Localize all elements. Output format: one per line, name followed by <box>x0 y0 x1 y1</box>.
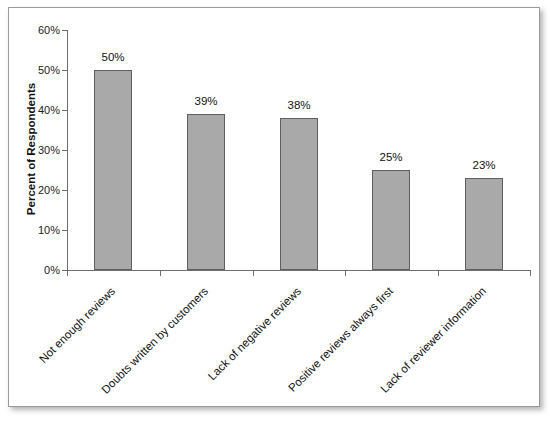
y-tick-label-40: 40% <box>14 105 60 116</box>
y-tick-label-40-wrap: 40% <box>12 105 60 116</box>
bar-value-lack-of-negative-reviews: 38% <box>269 99 329 111</box>
y-tick-label-60: 60% <box>14 25 60 36</box>
x-tick-5 <box>530 271 531 276</box>
x-axis-line <box>67 270 531 271</box>
bar-value-not-enough-reviews: 50% <box>83 51 143 63</box>
y-tick-30 <box>62 150 67 151</box>
y-axis-line <box>67 30 68 271</box>
x-tick-1 <box>160 271 161 276</box>
y-tick-label-20-wrap: 20% <box>12 185 60 196</box>
bar-positive-reviews-always-first[interactable] <box>372 170 410 270</box>
x-tick-3 <box>345 271 346 276</box>
y-tick-label-20: 20% <box>14 185 60 196</box>
bar-not-enough-reviews[interactable] <box>94 70 132 270</box>
y-tick-label-50-wrap: 50% <box>12 65 60 76</box>
plot-area: Percent of Respondents 60% 50% 40% 30% 2… <box>0 0 550 424</box>
bar-lack-of-negative-reviews[interactable] <box>280 118 318 270</box>
y-tick-label-50: 50% <box>14 65 60 76</box>
y-tick-label-0-wrap: 0% <box>12 265 60 276</box>
y-tick-20 <box>62 190 67 191</box>
y-tick-40 <box>62 110 67 111</box>
bar-doubts-written-by-customers[interactable] <box>187 114 225 270</box>
x-tick-2 <box>253 271 254 276</box>
y-tick-label-10-wrap: 10% <box>12 225 60 236</box>
x-category-label-4: Lack of reviewer information <box>338 285 488 424</box>
y-tick-label-10: 10% <box>14 225 60 236</box>
bar-value-positive-reviews-always-first: 25% <box>361 151 421 163</box>
y-tick-label-30-wrap: 30% <box>12 145 60 156</box>
chart-figure: Percent of Respondents 60% 50% 40% 30% 2… <box>0 0 550 424</box>
y-tick-label-30: 30% <box>14 145 60 156</box>
bar-lack-of-reviewer-information[interactable] <box>465 178 503 270</box>
bar-value-doubts-written-by-customers: 39% <box>176 95 236 107</box>
y-tick-label-60-wrap: 60% <box>12 25 60 36</box>
y-tick-50 <box>62 70 67 71</box>
bar-value-lack-of-reviewer-information: 23% <box>454 159 514 171</box>
y-tick-60 <box>62 30 67 31</box>
y-tick-10 <box>62 230 67 231</box>
x-tick-4 <box>438 271 439 276</box>
x-tick-0 <box>67 271 68 276</box>
y-tick-label-0: 0% <box>14 265 60 276</box>
